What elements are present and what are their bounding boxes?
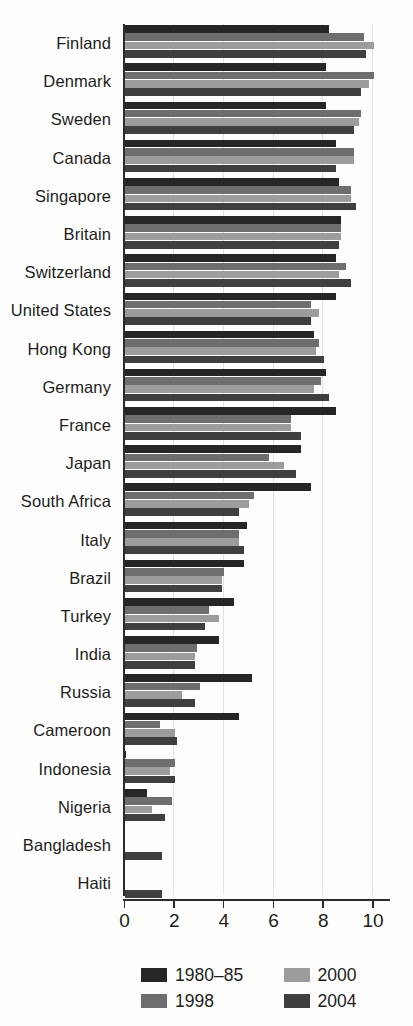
category-label: Nigeria (58, 797, 111, 816)
bar (125, 530, 239, 538)
bar (125, 424, 291, 432)
bar-group-row: Denmark (0, 62, 413, 100)
bar (125, 347, 316, 355)
bar-group (125, 407, 413, 440)
bar (125, 80, 369, 88)
bar (125, 415, 291, 423)
bar (125, 331, 314, 339)
bar (125, 737, 177, 745)
bar-group-row: Italy (0, 520, 413, 558)
bar (125, 713, 239, 721)
bar-group (125, 865, 413, 898)
category-label: Germany (42, 377, 111, 396)
bar-group-row: Germany (0, 368, 413, 406)
category-label: United States (11, 301, 111, 320)
bar (125, 126, 354, 134)
category-label: Switzerland (25, 263, 111, 282)
category-label: Denmark (43, 72, 111, 91)
bar (125, 568, 224, 576)
bar (125, 309, 319, 317)
x-tick (173, 899, 175, 908)
bar (125, 683, 200, 691)
bar (125, 156, 354, 164)
bar (125, 432, 301, 440)
bar-group (125, 178, 413, 211)
bar-group (125, 674, 413, 707)
bar (125, 271, 339, 279)
x-tick (322, 899, 324, 908)
category-label: Russia (60, 683, 111, 702)
category-label: India (75, 645, 111, 664)
category-label: Italy (80, 530, 111, 549)
bar-group-row: Canada (0, 139, 413, 177)
bar-group (125, 483, 413, 516)
bar-group-row: Turkey (0, 597, 413, 635)
bar (125, 729, 175, 737)
bar-group (125, 827, 413, 860)
bar (125, 88, 361, 96)
bar (125, 470, 296, 478)
bar (125, 216, 341, 224)
bar-group (125, 254, 413, 287)
bar (125, 454, 269, 462)
bar-group-row: Finland (0, 24, 413, 62)
category-label: Britain (64, 225, 111, 244)
bar (125, 110, 361, 118)
bar-group-row: France (0, 406, 413, 444)
bar (125, 852, 162, 860)
bar (125, 293, 336, 301)
bar (125, 483, 311, 491)
bar (125, 33, 364, 41)
bar (125, 224, 341, 232)
bar (125, 369, 326, 377)
x-tick (223, 899, 225, 908)
bar (125, 63, 326, 71)
category-label: South Africa (21, 492, 111, 511)
bar-group-row: Haiti (0, 864, 413, 902)
legend-swatch (284, 994, 310, 1008)
bar (125, 806, 152, 814)
bar (125, 25, 329, 33)
bar (125, 195, 351, 203)
bar (125, 203, 356, 211)
category-label: Indonesia (39, 759, 111, 778)
category-label: Singapore (35, 186, 111, 205)
bar-group (125, 445, 413, 478)
category-label: Turkey (61, 606, 111, 625)
bar-rows: FinlandDenmarkSwedenCanadaSingaporeBrita… (0, 24, 413, 902)
bar (125, 814, 165, 822)
legend-swatch (141, 994, 167, 1008)
bar (125, 339, 319, 347)
x-tick-label: 6 (268, 910, 279, 932)
bar (125, 759, 175, 767)
x-tick-label: 0 (119, 910, 130, 932)
bar (125, 42, 374, 50)
x-axis-line (123, 899, 390, 901)
bar-group-row: United States (0, 291, 413, 329)
bar-group (125, 102, 413, 135)
bar-group-row: Cameroon (0, 711, 413, 749)
category-label: Brazil (69, 568, 111, 587)
bar (125, 776, 175, 784)
bar-group (125, 560, 413, 593)
bar (125, 653, 195, 661)
x-tick-label: 4 (219, 910, 230, 932)
bar (125, 500, 249, 508)
bar (125, 263, 346, 271)
bar (125, 186, 351, 194)
bar-group (125, 63, 413, 96)
x-tick-label: 10 (362, 910, 383, 932)
bar (125, 674, 252, 682)
category-label: Sweden (51, 110, 111, 129)
bar (125, 644, 197, 652)
x-tick-label: 2 (169, 910, 180, 932)
bar (125, 615, 219, 623)
legend-swatch (284, 968, 310, 982)
bar (125, 560, 244, 568)
bar-group-row: Russia (0, 673, 413, 711)
bar-group-row: Sweden (0, 100, 413, 138)
bar (125, 797, 172, 805)
category-label: France (59, 415, 111, 434)
x-tick (273, 899, 275, 908)
x-tick (372, 899, 374, 908)
